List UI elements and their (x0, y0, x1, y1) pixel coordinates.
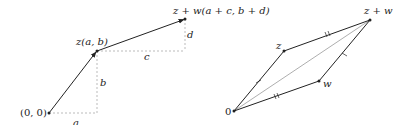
label-a: a (73, 117, 79, 125)
right-diagram: 0 z w z + w (225, 5, 393, 117)
label-b: b (100, 77, 106, 88)
label-zw: z + w (363, 5, 393, 16)
zw-point (184, 18, 187, 21)
w-point (318, 80, 321, 83)
left-diagram: (0, 0) z(a, b) z + w(a + c, b + d) a b c… (20, 5, 270, 125)
zw-point (369, 19, 372, 22)
label-z: z(a, b) (75, 36, 108, 47)
z-point (283, 50, 286, 53)
equality-ticks (256, 31, 347, 99)
z-point (96, 50, 99, 53)
origin-point (48, 112, 51, 115)
label-c: c (144, 51, 150, 62)
label-zw: z + w(a + c, b + d) (172, 5, 270, 16)
vector-w (97, 20, 184, 52)
label-origin: (0, 0) (20, 107, 47, 118)
label-z: z (275, 40, 282, 51)
dashed-guides (49, 19, 185, 113)
vector-addition-figure: (0, 0) z(a, b) z + w(a + c, b + d) a b c… (0, 0, 403, 125)
diagonal (234, 20, 370, 111)
vector-z (49, 52, 96, 113)
label-zero: 0 (225, 106, 231, 117)
label-w: w (323, 78, 332, 89)
zero-point (233, 110, 236, 113)
label-d: d (187, 29, 193, 40)
